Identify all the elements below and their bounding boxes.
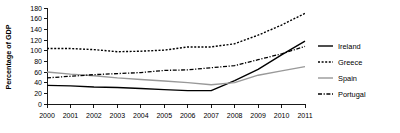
y-axis-ticks: 020406080100120140160180 bbox=[30, 5, 47, 108]
y-tick-label: 100 bbox=[30, 47, 42, 54]
y-tick-label: 140 bbox=[30, 26, 42, 33]
line-chart: Percentage of GDP 0204060801001201401601… bbox=[0, 0, 400, 133]
y-tick-label: 40 bbox=[34, 79, 42, 86]
x-tick-label: 2005 bbox=[156, 112, 172, 119]
data-series-group bbox=[47, 13, 305, 90]
y-tick-label: 20 bbox=[34, 90, 42, 97]
series-line-spain bbox=[47, 67, 305, 85]
y-tick-label: 180 bbox=[30, 5, 42, 12]
x-tick-label: 2004 bbox=[133, 112, 149, 119]
x-tick-label: 2009 bbox=[250, 112, 266, 119]
x-tick-label: 2006 bbox=[180, 112, 196, 119]
legend-label-ireland: Ireland bbox=[338, 42, 361, 51]
y-axis-title: Percentage of GDP bbox=[4, 24, 13, 89]
legend-label-spain: Spain bbox=[338, 74, 357, 83]
series-line-ireland bbox=[47, 41, 305, 91]
x-tick-label: 2011 bbox=[297, 112, 312, 119]
chart-legend: IrelandGreeceSpainPortugal bbox=[318, 42, 366, 99]
x-tick-label: 2001 bbox=[63, 112, 79, 119]
y-tick-label: 120 bbox=[30, 37, 42, 44]
x-tick-label: 2010 bbox=[274, 112, 290, 119]
y-axis-title-text: Percentage of GDP bbox=[4, 24, 13, 89]
y-tick-label: 160 bbox=[30, 15, 42, 22]
y-tick-label: 0 bbox=[38, 101, 42, 108]
x-tick-label: 2002 bbox=[86, 112, 102, 119]
x-tick-label: 2003 bbox=[110, 112, 126, 119]
y-tick-label: 80 bbox=[34, 58, 42, 65]
x-tick-label: 2007 bbox=[203, 112, 219, 119]
x-axis-ticks: 2000200120022003200420052006200720082009… bbox=[39, 104, 312, 119]
legend-label-greece: Greece bbox=[338, 58, 362, 67]
chart-container: Percentage of GDP 0204060801001201401601… bbox=[0, 0, 400, 133]
x-tick-label: 2000 bbox=[39, 112, 55, 119]
legend-label-portugal: Portugal bbox=[338, 90, 366, 99]
x-tick-label: 2008 bbox=[227, 112, 243, 119]
series-line-greece bbox=[47, 13, 305, 51]
y-tick-label: 60 bbox=[34, 69, 42, 76]
